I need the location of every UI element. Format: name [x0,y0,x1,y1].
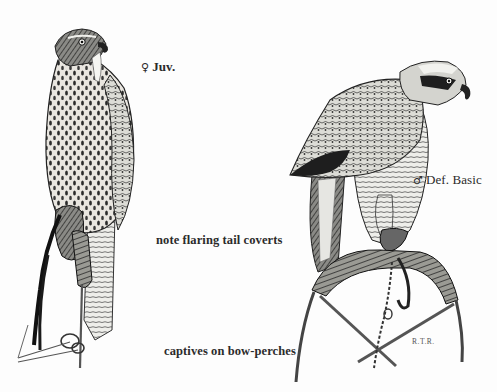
male-symbol-icon: ♂ [413,174,423,187]
adult-caption-text: Def. Basic [426,172,482,187]
tail-coverts-note: note flaring tail coverts [156,233,282,248]
adult-hawk [290,61,470,382]
hawks-drawing [0,0,497,392]
bow-perch-note: captives on bow-perches [164,344,296,359]
artist-signature: R.T.R. [412,337,435,346]
juvenile-hawk [18,29,134,368]
female-symbol-icon: ♀ [141,61,149,74]
juvenile-caption-text: Juv. [152,59,175,74]
adult-caption: ♂Def. Basic [413,172,482,188]
juvenile-caption: ♀Juv. [141,59,175,75]
illustration-plate: ♀Juv. ♂Def. Basic note flaring tail cove… [0,0,497,392]
